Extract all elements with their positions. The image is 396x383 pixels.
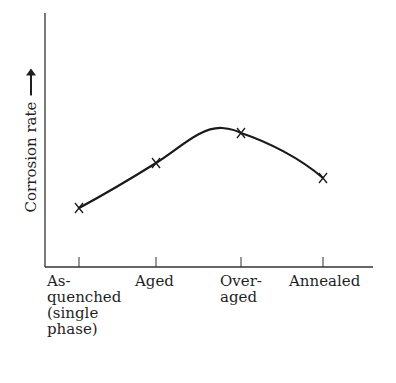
- corrosion-rate-curve: [79, 128, 323, 208]
- x-label-line: Aged: [135, 273, 174, 289]
- x-label-line: aged: [220, 289, 262, 305]
- y-axis-label: Corrosion rate: [22, 74, 40, 213]
- x-label-line: As-: [47, 273, 121, 289]
- x-marker-icon: [75, 203, 83, 213]
- x-marker-icon: [319, 173, 327, 183]
- x-label-annealed: Annealed: [289, 273, 360, 289]
- x-label-line: quenched: [47, 289, 121, 305]
- x-label-as-quenched: As- quenched (single phase): [47, 273, 121, 337]
- x-label-aged: Aged: [135, 273, 174, 289]
- x-label-line: Annealed: [289, 273, 360, 289]
- x-marker-icon: [152, 158, 160, 168]
- x-label-line: Over-: [220, 273, 262, 289]
- x-label-line: (single: [47, 305, 121, 321]
- x-label-over-aged: Over- aged: [220, 273, 262, 305]
- up-arrow-icon: [30, 74, 32, 96]
- x-label-line: phase): [47, 321, 121, 337]
- y-axis-label-text: Corrosion rate: [22, 102, 40, 213]
